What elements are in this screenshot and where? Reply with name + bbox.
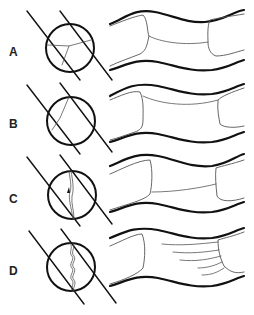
panel-d <box>29 228 244 304</box>
panel-a <box>27 10 244 80</box>
panel-c <box>27 154 244 226</box>
panel-b <box>27 83 244 154</box>
diagram <box>0 0 254 315</box>
